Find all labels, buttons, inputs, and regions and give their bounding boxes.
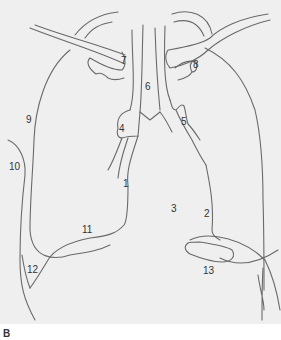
diagram-panel: 7 8 6 4 5 9 10 1 3 2 11 12 13 xyxy=(0,0,281,324)
carina xyxy=(140,112,160,120)
label-2: 2 xyxy=(204,208,210,219)
region-5-outline xyxy=(170,100,206,165)
chest-xray-tracing: 7 8 6 4 5 9 10 1 3 2 11 12 13 xyxy=(0,0,281,324)
label-13: 13 xyxy=(203,265,215,276)
label-11: 11 xyxy=(82,224,93,235)
label-12: 12 xyxy=(27,264,39,275)
label-5: 5 xyxy=(181,116,187,127)
right-bronchus xyxy=(160,112,172,132)
right-costophrenic-line xyxy=(258,268,264,320)
trachea-left-wall xyxy=(130,25,143,112)
label-4: 4 xyxy=(119,123,125,134)
label-1: 1 xyxy=(123,178,129,189)
left-lung-outer-border xyxy=(30,50,110,257)
right-clavicle-outline xyxy=(166,14,270,68)
label-9: 9 xyxy=(26,114,32,125)
left-clavicle-outline xyxy=(30,25,125,64)
label-3: 3 xyxy=(171,203,177,214)
label-10: 10 xyxy=(9,161,21,172)
right-heart-border xyxy=(206,165,220,240)
region-13-outline xyxy=(185,242,233,262)
label-8: 8 xyxy=(193,59,199,70)
right-lung-outer-border xyxy=(205,48,264,290)
label-6: 6 xyxy=(145,81,151,92)
label-7: 7 xyxy=(121,55,127,66)
right-upper-rib-arc xyxy=(172,12,212,36)
trachea-right-wall xyxy=(155,26,170,110)
left-paracardiac-line xyxy=(30,136,138,288)
panel-label: B xyxy=(3,328,10,339)
left-upper-rib-arc xyxy=(75,12,118,38)
